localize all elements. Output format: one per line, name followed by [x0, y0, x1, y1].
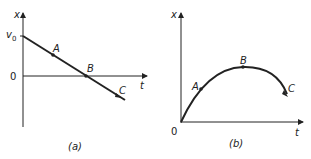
- panel-b: x t 0 A B C (b): [170, 9, 303, 149]
- x-axis-label: t: [295, 127, 300, 138]
- label-b: B: [240, 55, 247, 66]
- y-axis-label: x: [170, 9, 177, 20]
- point-a: [199, 87, 203, 91]
- origin-label: 0: [171, 126, 177, 137]
- y-axis-label: x: [13, 9, 20, 20]
- origin-label: 0: [10, 71, 16, 82]
- kinematics-figure: x t v 0 0 A B C (a) x t 0 A B C (b): [0, 0, 311, 159]
- position-curve: [181, 67, 287, 122]
- panel-a: x t v 0 0 A B C (a): [6, 9, 147, 152]
- caption-b: (b): [229, 138, 243, 149]
- label-b: B: [87, 63, 94, 74]
- point-b: [84, 74, 88, 78]
- x-axis-label: t: [140, 80, 145, 91]
- label-c: C: [119, 85, 126, 96]
- position-line: [23, 36, 125, 100]
- label-a: A: [52, 43, 60, 54]
- label-c: C: [288, 83, 295, 94]
- v0-subscript: 0: [12, 35, 16, 43]
- caption-a: (a): [68, 141, 82, 152]
- label-a: A: [191, 81, 199, 92]
